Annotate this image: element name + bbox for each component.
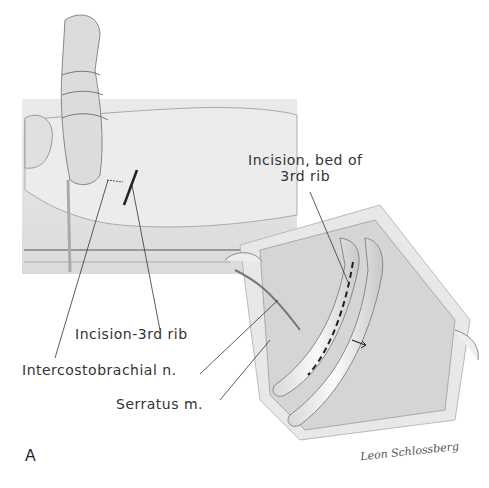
label-incision-bed: Incision, bed of 3rd rib [248,152,362,184]
operative-field [225,205,478,440]
label-incision-3rd-rib: Incision-3rd rib [75,326,188,342]
illustration [0,0,489,488]
panel-letter: A [25,447,36,465]
figure: Incision, bed of 3rd rib Incision-3rd ri… [0,0,489,488]
patient-view [22,15,297,274]
label-serratus: Serratus m. [116,396,203,412]
label-intercostobrachial: Intercostobrachial n. [22,362,177,378]
label-incision-bed-line2: 3rd rib [248,168,362,184]
label-incision-bed-line1: Incision, bed of [248,152,362,168]
